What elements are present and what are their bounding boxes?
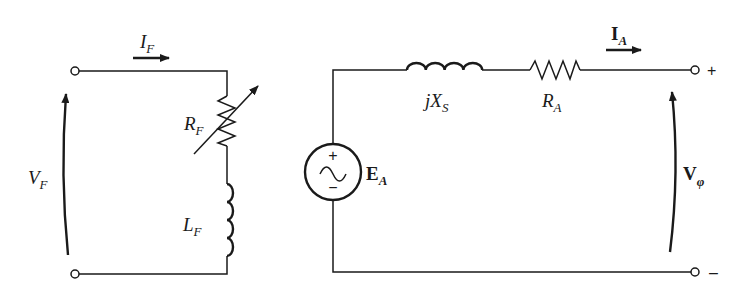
source-label: EA <box>366 163 388 188</box>
synchronous-reactance-label: jXS <box>422 90 449 115</box>
armature-left-top-wire <box>333 70 407 144</box>
armature-resistor-label: RA <box>541 90 562 115</box>
armature-terminal-positive <box>691 66 699 74</box>
field-circuit: IF VF RF LF <box>28 31 258 278</box>
source-plus-sign: + <box>328 147 337 164</box>
field-voltage-label: VF <box>28 167 49 192</box>
field-terminal-top <box>71 67 79 75</box>
field-resistor <box>218 96 235 146</box>
circuit-diagram: IF VF RF LF + − EA jXS RA IA <box>0 0 730 296</box>
terminal-minus-sign: – <box>709 264 718 281</box>
armature-terminal-negative <box>691 268 699 276</box>
output-voltage-label: Vφ <box>683 163 705 189</box>
armature-resistor <box>530 61 580 79</box>
synchronous-reactance-inductor <box>407 63 482 70</box>
field-inductor-label: LF <box>182 214 203 239</box>
source-minus-sign: − <box>328 179 337 196</box>
field-inductor <box>227 184 233 256</box>
field-terminal-bottom <box>71 270 79 278</box>
field-resistor-label: RF <box>183 113 205 138</box>
field-voltage-arrow-icon <box>63 94 68 255</box>
armature-circuit: + − EA jXS RA IA + – Vφ <box>305 23 718 281</box>
output-voltage-arrow-icon <box>670 92 676 252</box>
field-current-label: IF <box>139 31 155 56</box>
armature-bottom-wire <box>333 200 691 272</box>
field-bottom-wire <box>79 256 227 274</box>
field-top-wire <box>79 71 227 96</box>
terminal-plus-sign: + <box>707 62 716 79</box>
armature-current-label: IA <box>611 23 627 48</box>
